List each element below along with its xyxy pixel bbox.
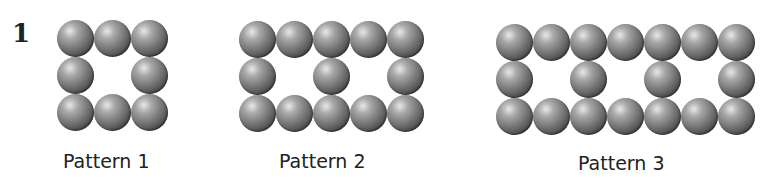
sphere — [533, 24, 570, 61]
sphere — [131, 94, 168, 131]
sphere — [496, 24, 533, 61]
sphere — [496, 61, 533, 98]
sphere — [239, 21, 276, 58]
sphere — [644, 24, 681, 61]
sphere — [239, 95, 276, 132]
sphere — [533, 98, 570, 135]
sphere — [57, 57, 94, 94]
sphere — [131, 20, 168, 57]
sphere — [276, 95, 313, 132]
sphere — [681, 98, 718, 135]
pattern-label: Pattern 1 — [63, 150, 149, 172]
sphere — [131, 57, 168, 94]
sphere — [387, 58, 424, 95]
pattern-label: Pattern 3 — [578, 152, 664, 174]
sphere — [570, 98, 607, 135]
sphere — [94, 94, 131, 131]
sphere — [350, 21, 387, 58]
sphere — [387, 21, 424, 58]
sphere — [239, 58, 276, 95]
sphere — [718, 98, 755, 135]
pattern-label: Pattern 2 — [279, 150, 365, 172]
sphere — [607, 98, 644, 135]
sphere — [607, 24, 644, 61]
sphere — [313, 58, 350, 95]
sphere — [644, 61, 681, 98]
sphere — [313, 21, 350, 58]
sphere — [350, 95, 387, 132]
sphere — [570, 24, 607, 61]
sphere — [681, 24, 718, 61]
sphere — [496, 98, 533, 135]
sphere — [276, 21, 313, 58]
sphere — [570, 61, 607, 98]
sphere — [94, 20, 131, 57]
sphere — [718, 24, 755, 61]
sphere — [313, 95, 350, 132]
sphere — [718, 61, 755, 98]
sphere — [57, 20, 94, 57]
sphere — [644, 98, 681, 135]
sphere — [57, 94, 94, 131]
sphere — [387, 95, 424, 132]
problem-number: 1 — [12, 18, 30, 48]
